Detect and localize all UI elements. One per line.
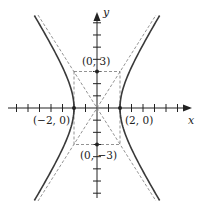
y-axis-arrow-icon [94, 12, 101, 21]
y-axis-label: y [102, 6, 110, 19]
x-axis-label: x [188, 114, 195, 127]
point-0-neg3-dot [95, 143, 99, 147]
point-label-neg2-0: (−2, 0) [33, 114, 70, 126]
diagram-canvas: y x (−2, 0) (2, 0) (0, 3) (0, −3) [0, 0, 200, 205]
point-label-0-3: (0, 3) [82, 55, 110, 67]
point-label-2-0: (2, 0) [125, 114, 153, 126]
hyperbola-diagram: y x (−2, 0) (2, 0) (0, 3) (0, −3) [0, 0, 200, 205]
x-axis-arrow-icon [183, 105, 192, 112]
point-label-0-neg3: (0, −3) [80, 149, 117, 161]
vertex-right-dot [118, 106, 122, 110]
vertex-left-dot [72, 106, 76, 110]
point-0-3-dot [95, 70, 99, 74]
